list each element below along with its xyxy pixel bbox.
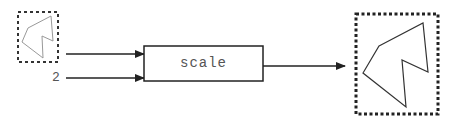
input-image (18, 12, 58, 62)
output-image (356, 14, 438, 114)
scale-function-label: scale (144, 55, 263, 71)
input-polygon-shape (22, 16, 53, 58)
output-polygon-shape (363, 23, 428, 107)
number-input-label: 2 (52, 70, 60, 85)
